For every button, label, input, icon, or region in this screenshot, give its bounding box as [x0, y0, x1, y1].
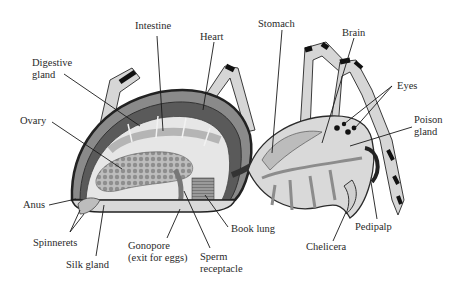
eye-3 [345, 129, 351, 135]
label-pedipalp: Pedipalp [355, 221, 392, 233]
label-intestine: Intestine [135, 20, 171, 32]
cephalothorax [232, 116, 378, 218]
line-pedipalp [371, 182, 377, 219]
eye-1 [334, 125, 340, 131]
label-spinnerets: Spinnerets [33, 237, 77, 249]
label-gonopore: Gonopore (exit for eggs) [128, 240, 187, 264]
label-book-lung: Book lung [231, 223, 275, 235]
eye-4 [352, 126, 357, 131]
label-chelicera: Chelicera [306, 241, 346, 253]
label-eyes: Eyes [397, 80, 417, 92]
label-heart: Heart [200, 31, 223, 43]
line-gonopore [167, 209, 180, 238]
label-stomach: Stomach [258, 18, 295, 30]
label-digestive-gland: Digestive gland [32, 57, 72, 81]
label-poison-gland: Poison gland [414, 114, 443, 138]
label-sperm-receptacle: Sperm receptacle [200, 251, 243, 275]
label-brain: Brain [342, 27, 365, 39]
label-ovary: Ovary [20, 115, 46, 127]
line-chelicera [333, 212, 346, 241]
label-anus: Anus [23, 199, 45, 211]
book-lung-shape [192, 178, 214, 202]
label-silk-gland: Silk gland [66, 259, 109, 271]
